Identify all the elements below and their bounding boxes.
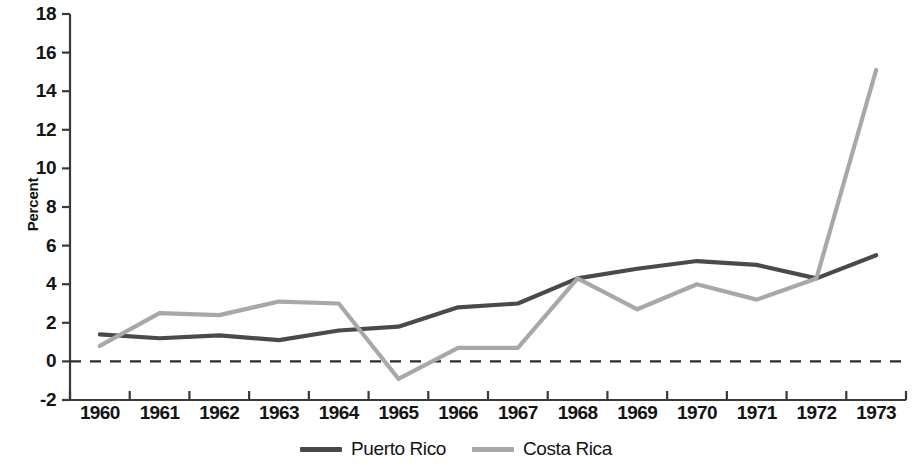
legend-label: Costa Rica — [523, 438, 612, 460]
plot-area — [0, 0, 912, 472]
legend-item[interactable]: Puerto Rico — [300, 438, 446, 460]
legend-swatch-icon — [472, 447, 514, 452]
legend-swatch-icon — [300, 447, 342, 452]
legend-item[interactable]: Costa Rica — [472, 438, 612, 460]
chart-legend: Puerto RicoCosta Rica — [0, 438, 912, 460]
legend-label: Puerto Rico — [351, 438, 446, 460]
line-chart: Percent 181614121086420-2 19601961196219… — [0, 0, 912, 472]
series-line-costa-rica — [100, 70, 876, 379]
